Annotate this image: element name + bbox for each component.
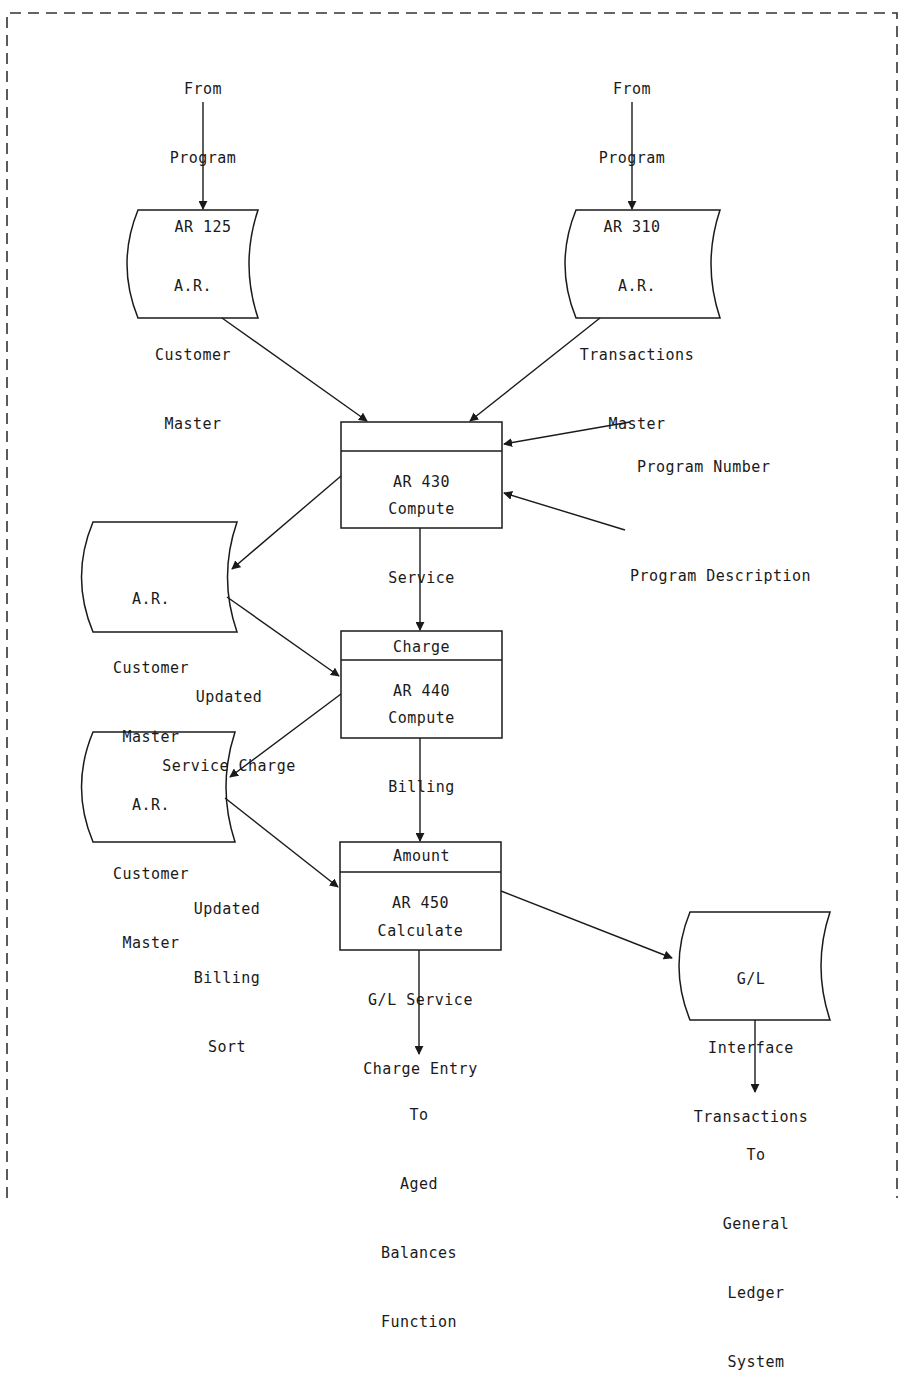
arrow-ar450-to-gl-interface xyxy=(501,891,672,958)
annotation-program-number: Program Number xyxy=(637,410,770,502)
arrow-ar430-to-customer-master-2 xyxy=(232,476,341,569)
source-ar310-label: From Program AR 310 xyxy=(572,32,692,262)
annotation-updated-billing-sort: Updated Billing Sort xyxy=(177,852,277,1082)
annotation-program-description: Program Description xyxy=(630,519,811,611)
annotation-updated-service-charge: Updated Service Charge xyxy=(148,640,310,801)
arrow-program-description xyxy=(504,493,625,530)
destination-general-ledger-label: To General Ledger System xyxy=(710,1098,802,1374)
destination-aged-balances-label: To Aged Balances Function xyxy=(359,1058,479,1357)
source-ar125-label: From Program AR 125 xyxy=(143,32,263,262)
storage-customer-master-1-label: A.R. Customer Master xyxy=(128,229,258,459)
